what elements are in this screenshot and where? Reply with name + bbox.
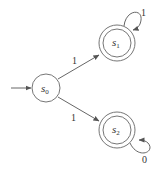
transition-s2-self-loop-label: 0 (142, 154, 147, 165)
transition-s1-self-loop-label: 1 (141, 7, 146, 18)
state-s1: s1 (99, 25, 135, 61)
state-s1-label-sub: 1 (116, 42, 120, 50)
transition-s0-s1-label: 1 (72, 55, 77, 66)
state-diagram: s0 s1 s2 1 1 1 0 (0, 0, 155, 175)
transition-s0-s2 (58, 97, 99, 121)
transition-s0-s1 (58, 55, 99, 79)
transition-s0-s2-label: 1 (71, 112, 76, 123)
state-s0-label-sub: 0 (45, 88, 49, 96)
state-s0: s0 (32, 74, 60, 102)
state-s2-label-sub: 2 (116, 129, 120, 137)
transition-s2-self-loop (130, 140, 150, 153)
state-s2: s2 (99, 112, 135, 148)
